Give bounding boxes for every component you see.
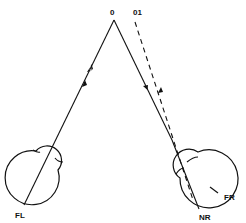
eye-fixation-diagram: 0 01 FL NR FR xyxy=(0,0,246,223)
arrow-down-icon xyxy=(143,85,148,90)
right-eye-fovea-label: FR xyxy=(224,193,235,202)
apex-label: 0 xyxy=(110,8,115,17)
right-dashed-axis xyxy=(135,22,193,200)
arrow-up-icon xyxy=(158,87,163,93)
left-eye xyxy=(5,146,63,205)
right-eye-nasal-label: NR xyxy=(199,213,211,222)
apex-offset-label: 01 xyxy=(133,8,142,17)
right-visual-axis xyxy=(114,20,172,140)
left-eye-label: FL xyxy=(15,211,25,220)
left-visual-axis xyxy=(24,20,114,205)
